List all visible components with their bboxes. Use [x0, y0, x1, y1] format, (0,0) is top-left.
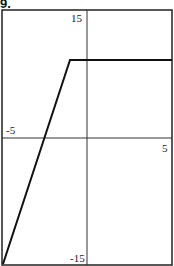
x-left-label: -5: [6, 124, 16, 136]
x-right-label: 5: [162, 142, 168, 154]
graph-window: 15 -15 -5 5: [0, 0, 174, 266]
y-bottom-label: -15: [70, 252, 85, 264]
y-top-label: 15: [71, 12, 83, 24]
